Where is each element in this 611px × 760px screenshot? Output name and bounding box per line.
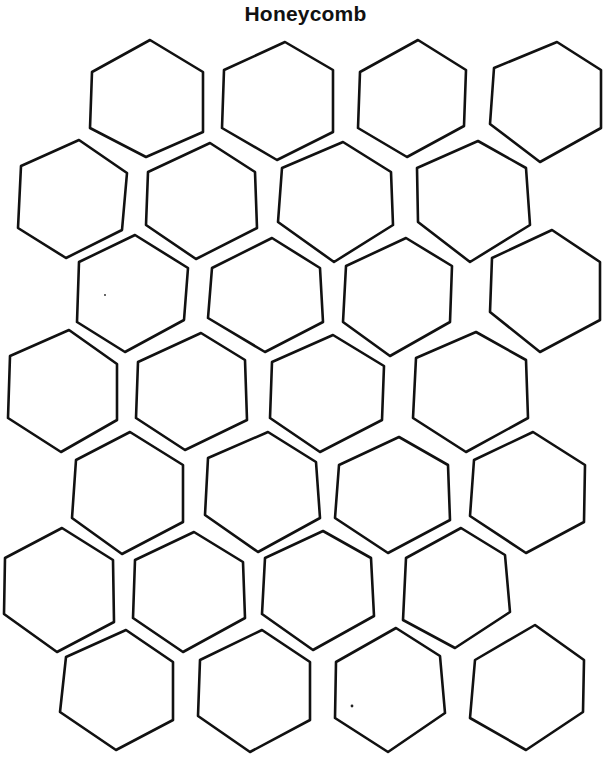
hexagon-cell-r2-c3 — [278, 142, 393, 262]
hexagon-cell-r5-c1 — [72, 432, 183, 554]
hexagon-cell-r2-c4 — [417, 141, 530, 262]
hexagon-cell-r4-c4 — [413, 332, 528, 452]
hexagon-cell-r7-c3 — [335, 628, 445, 752]
hexagon-cell-r5-c4 — [470, 432, 585, 553]
hexagon-cell-r3-c2 — [208, 238, 323, 352]
hexagon-cell-r1-c4 — [490, 42, 601, 162]
honeycomb-grid — [4, 40, 601, 752]
hexagon-cell-r4-c1 — [8, 330, 117, 452]
hexagon-cell-r4-c2 — [136, 333, 247, 450]
hexagon-cell-r7-c1 — [60, 630, 173, 750]
hexagon-cell-r1-c2 — [222, 42, 333, 160]
hexagon-cell-r7-c2 — [198, 630, 310, 752]
honeycomb-sheet — [0, 0, 611, 760]
hexagon-cell-r6-c1 — [4, 528, 114, 652]
hexagon-cell-r3-c4 — [490, 230, 600, 352]
hexagon-cell-r2-c2 — [146, 143, 257, 259]
ink-speck — [104, 294, 106, 296]
ink-speck — [351, 705, 354, 708]
hexagon-cell-r2-c1 — [18, 140, 127, 258]
hexagon-cell-r3-c3 — [343, 238, 452, 356]
hexagon-cell-r6-c2 — [133, 532, 245, 652]
hexagon-cell-r6-c3 — [262, 531, 374, 650]
hexagon-cell-r4-c3 — [270, 335, 384, 452]
hexagon-cell-r1-c3 — [358, 40, 466, 157]
hexagon-cell-r7-c4 — [470, 625, 584, 750]
hexagon-cell-r5-c2 — [205, 432, 320, 552]
hexagon-cell-r6-c4 — [403, 528, 510, 648]
hexagon-cell-r1-c1 — [90, 40, 203, 157]
hexagon-cell-r3-c1 — [77, 235, 188, 352]
hexagon-cell-r5-c3 — [335, 437, 450, 553]
